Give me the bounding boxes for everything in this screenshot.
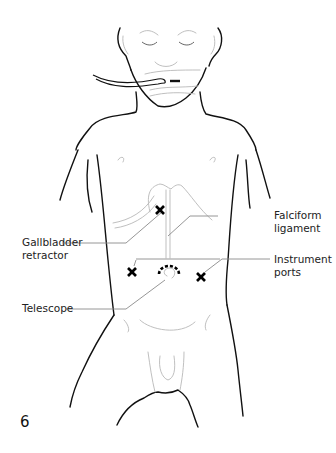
label-instrument-line1: Instrument: [274, 253, 332, 266]
figure-number: 6: [20, 413, 30, 431]
label-gallbladder-line2: retractor: [22, 249, 83, 262]
right-instrument-port-marker: [197, 273, 205, 281]
body-outline: [60, 92, 270, 427]
label-gallbladder-line1: Gallbladder: [22, 236, 83, 249]
label-instrument-line2: ports: [274, 266, 332, 279]
label-falciform-line2: ligament: [274, 222, 322, 235]
gallbladder-retractor-port-marker: [156, 206, 164, 214]
label-gallbladder-retractor: Gallbladder retractor: [22, 236, 83, 262]
label-telescope-line1: Telescope: [22, 302, 73, 315]
label-instrument-ports: Instrument ports: [274, 253, 332, 279]
label-telescope: Telescope: [22, 302, 73, 315]
label-falciform-ligament: Falciform ligament: [274, 209, 322, 235]
head-outline: [118, 28, 222, 107]
label-falciform-line1: Falciform: [274, 209, 322, 222]
face-features: [140, 31, 200, 96]
left-instrument-port-marker: [128, 268, 136, 276]
telescope-port-marker: [159, 266, 179, 274]
